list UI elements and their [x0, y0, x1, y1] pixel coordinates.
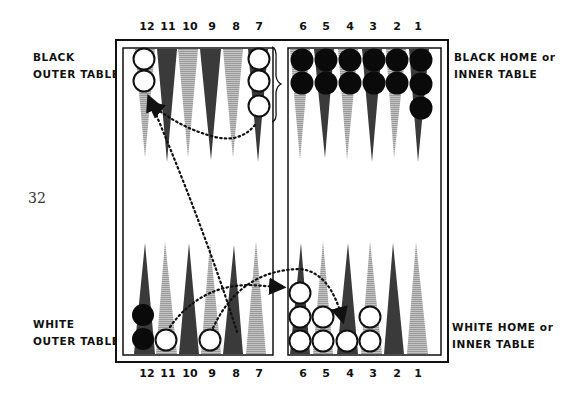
white-checker	[249, 96, 270, 117]
white-checker	[360, 331, 381, 352]
white-checker	[134, 71, 155, 92]
black-checker	[315, 72, 338, 95]
white-checker	[290, 331, 311, 352]
white-checker	[249, 71, 270, 92]
white-checker	[249, 49, 270, 70]
black-checker	[339, 72, 362, 95]
black-checker	[363, 72, 386, 95]
black-checker	[410, 49, 433, 72]
white-checker	[360, 307, 381, 328]
black-checker	[363, 49, 386, 72]
black-checker	[291, 72, 314, 95]
black-checker	[315, 49, 338, 72]
white-checker	[313, 331, 334, 352]
white-checker	[200, 330, 221, 351]
black-checker	[132, 304, 154, 326]
black-checker	[339, 49, 362, 72]
black-checker	[386, 72, 409, 95]
white-checker	[290, 283, 311, 304]
black-checker	[132, 328, 154, 350]
white-checker	[156, 330, 177, 351]
white-checker	[337, 331, 358, 352]
black-checker	[410, 73, 433, 96]
black-checker	[291, 49, 314, 72]
white-checker	[290, 307, 311, 328]
white-checker	[313, 307, 334, 328]
black-checker	[410, 97, 433, 120]
backgammon-board	[0, 0, 566, 400]
white-checker	[134, 49, 155, 70]
black-checker	[386, 49, 409, 72]
